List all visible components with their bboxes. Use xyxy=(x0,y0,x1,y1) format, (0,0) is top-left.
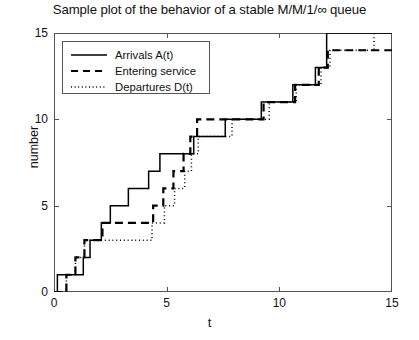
legend-label-departures: Departures D(t) xyxy=(115,81,193,93)
legend-swatch-solid xyxy=(69,50,109,60)
y-tick-mark xyxy=(54,206,59,207)
x-tick-mark xyxy=(167,287,168,292)
chart-legend: Arrivals A(t) Entering service Departure… xyxy=(62,41,210,94)
legend-label-arrivals: Arrivals A(t) xyxy=(115,49,173,61)
x-tick-label-10: 10 xyxy=(259,296,299,310)
legend-label-entering-service: Entering service xyxy=(115,65,196,77)
x-tick-label-5: 5 xyxy=(147,296,187,310)
x-tick-mark-top xyxy=(167,33,168,38)
chart-figure: Sample plot of the behavior of a stable … xyxy=(0,0,419,340)
legend-swatch-dashed xyxy=(69,66,109,76)
x-tick-label-15: 15 xyxy=(372,296,412,310)
y-tick-mark-right xyxy=(387,119,392,120)
legend-item-arrivals: Arrivals A(t) xyxy=(69,47,209,62)
legend-item-departures: Departures D(t) xyxy=(69,79,209,94)
legend-swatch-dotted xyxy=(69,82,109,92)
x-tick-label-0: 0 xyxy=(34,296,74,310)
chart-title: Sample plot of the behavior of a stable … xyxy=(0,2,419,17)
y-tick-label-5: 5 xyxy=(14,199,48,213)
legend-item-entering-service: Entering service xyxy=(69,63,209,78)
x-tick-mark xyxy=(279,287,280,292)
x-axis-label: t xyxy=(0,315,419,330)
y-tick-label-15: 15 xyxy=(14,26,48,40)
y-tick-mark xyxy=(54,119,59,120)
x-tick-mark-top xyxy=(279,33,280,38)
y-axis-label: number xyxy=(27,97,41,197)
y-tick-mark-right xyxy=(387,206,392,207)
